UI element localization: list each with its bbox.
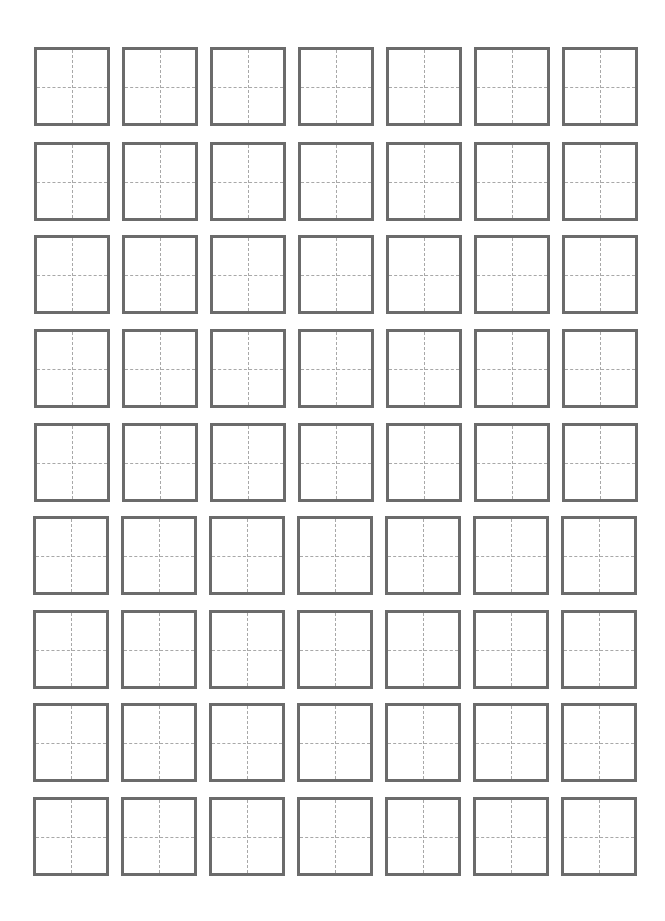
grid-cell: [33, 516, 109, 595]
grid-cell: [474, 47, 550, 126]
horizontal-guide-line: [565, 275, 635, 276]
grid-cell: [34, 329, 110, 408]
grid-cell: [121, 797, 197, 876]
grid-cell: [298, 423, 374, 502]
grid-cell: [298, 142, 374, 221]
horizontal-guide-line: [388, 837, 458, 838]
horizontal-guide-line: [477, 182, 547, 183]
horizontal-guide-line: [389, 369, 459, 370]
grid-cell: [33, 610, 109, 689]
grid-cell: [562, 142, 638, 221]
grid-cell: [122, 235, 198, 314]
grid-cell: [209, 516, 285, 595]
grid-cell: [561, 516, 637, 595]
horizontal-guide-line: [300, 556, 370, 557]
horizontal-guide-line: [476, 650, 546, 651]
grid-cell: [473, 703, 549, 782]
horizontal-guide-line: [212, 743, 282, 744]
horizontal-guide-line: [476, 837, 546, 838]
grid-cell: [297, 703, 373, 782]
horizontal-guide-line: [125, 369, 195, 370]
horizontal-guide-line: [212, 650, 282, 651]
grid-cell: [385, 703, 461, 782]
grid-cell: [385, 610, 461, 689]
horizontal-guide-line: [389, 182, 459, 183]
horizontal-guide-line: [36, 650, 106, 651]
grid-cell: [561, 703, 637, 782]
horizontal-guide-line: [389, 463, 459, 464]
grid-cell: [121, 516, 197, 595]
horizontal-guide-line: [301, 87, 371, 88]
horizontal-guide-line: [565, 369, 635, 370]
grid-cell: [34, 235, 110, 314]
horizontal-guide-line: [388, 650, 458, 651]
grid-cell: [562, 423, 638, 502]
grid-cell: [474, 235, 550, 314]
horizontal-guide-line: [213, 87, 283, 88]
horizontal-guide-line: [301, 182, 371, 183]
horizontal-guide-line: [37, 182, 107, 183]
grid-cell: [386, 142, 462, 221]
horizontal-guide-line: [300, 837, 370, 838]
grid-cell: [473, 797, 549, 876]
horizontal-guide-line: [300, 743, 370, 744]
horizontal-guide-line: [300, 650, 370, 651]
grid-cell: [561, 610, 637, 689]
horizontal-guide-line: [125, 275, 195, 276]
grid-cell: [297, 516, 373, 595]
grid-cell: [122, 47, 198, 126]
grid-cell: [474, 423, 550, 502]
grid-cell: [210, 329, 286, 408]
grid-cell: [297, 610, 373, 689]
horizontal-guide-line: [124, 650, 194, 651]
horizontal-guide-line: [301, 463, 371, 464]
grid-cell: [298, 329, 374, 408]
grid-cell: [209, 797, 285, 876]
grid-cell: [562, 235, 638, 314]
horizontal-guide-line: [564, 837, 634, 838]
grid-cell: [562, 47, 638, 126]
grid-cell: [210, 235, 286, 314]
horizontal-guide-line: [213, 182, 283, 183]
horizontal-guide-line: [37, 275, 107, 276]
horizontal-guide-line: [36, 743, 106, 744]
horizontal-guide-line: [212, 556, 282, 557]
grid-cell: [473, 516, 549, 595]
grid-cell: [386, 235, 462, 314]
horizontal-guide-line: [124, 837, 194, 838]
grid-cell: [562, 329, 638, 408]
grid-cell: [122, 423, 198, 502]
horizontal-guide-line: [301, 369, 371, 370]
grid-cell: [210, 423, 286, 502]
grid-cell: [474, 329, 550, 408]
horizontal-guide-line: [37, 369, 107, 370]
horizontal-guide-line: [388, 556, 458, 557]
horizontal-guide-line: [213, 275, 283, 276]
horizontal-guide-line: [213, 369, 283, 370]
grid-cell: [209, 610, 285, 689]
horizontal-guide-line: [477, 369, 547, 370]
grid-cell: [33, 703, 109, 782]
horizontal-guide-line: [564, 743, 634, 744]
grid-cell: [121, 703, 197, 782]
grid-cell: [209, 703, 285, 782]
horizontal-guide-line: [125, 182, 195, 183]
grid-cell: [33, 797, 109, 876]
horizontal-guide-line: [212, 837, 282, 838]
horizontal-guide-line: [564, 556, 634, 557]
horizontal-guide-line: [301, 275, 371, 276]
horizontal-guide-line: [36, 837, 106, 838]
grid-cell: [298, 235, 374, 314]
horizontal-guide-line: [37, 463, 107, 464]
grid-cell: [210, 47, 286, 126]
horizontal-guide-line: [564, 650, 634, 651]
practice-grid-sheet: [0, 0, 665, 921]
horizontal-guide-line: [389, 87, 459, 88]
horizontal-guide-line: [37, 87, 107, 88]
horizontal-guide-line: [36, 556, 106, 557]
grid-cell: [34, 142, 110, 221]
grid-cell: [474, 142, 550, 221]
horizontal-guide-line: [477, 87, 547, 88]
horizontal-guide-line: [477, 463, 547, 464]
horizontal-guide-line: [389, 275, 459, 276]
